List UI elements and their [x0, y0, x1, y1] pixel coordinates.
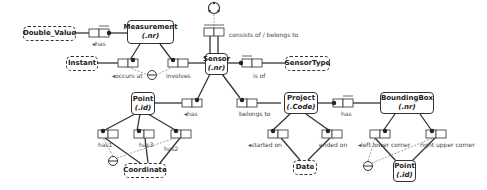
value-type-instant[interactable]: Instant: [66, 56, 98, 71]
role-label-has2: has2: [164, 145, 178, 152]
role-label-has1: has1: [98, 141, 112, 148]
role-label-right-upper-corner: right upper corner: [420, 141, 475, 148]
role-label-left-lower-corner: ◂left lower corner: [358, 141, 410, 148]
entity-measurement[interactable]: Measurement(.nr): [127, 20, 174, 44]
role-label-has-value: ◂has: [92, 40, 106, 47]
value-type-double-value[interactable]: Double_Value: [23, 26, 76, 41]
role-label-consists-of: consists of / belongs to: [229, 31, 298, 38]
value-type-sensortype[interactable]: SensorType: [285, 56, 330, 71]
entity-point[interactable]: Point(.id): [131, 92, 155, 115]
role-label-started-on: ◂started on: [248, 141, 282, 148]
role-label-ended-on: ended on: [319, 141, 347, 148]
entity-sensor[interactable]: Sensor(.nr): [205, 53, 228, 75]
role-label-occurs-at: ◂occurs at: [112, 72, 143, 79]
entity-project[interactable]: Project(.Code): [284, 92, 318, 114]
role-label-belongs-to: belongs to: [239, 110, 271, 117]
value-type-date[interactable]: Date: [293, 160, 317, 175]
role-label-point-has: ◂has: [184, 110, 198, 117]
entity-boundingbox[interactable]: BoundingBox(.nr): [380, 92, 434, 114]
value-type-coordinate[interactable]: Coordinate: [124, 163, 166, 178]
entity-point-corner[interactable]: Point(.id): [393, 160, 416, 182]
role-label-project-has: has: [341, 110, 352, 117]
role-label-has3: has3: [139, 141, 153, 148]
role-label-is-of: is of: [253, 72, 265, 79]
role-label-involves: involves: [166, 72, 191, 79]
